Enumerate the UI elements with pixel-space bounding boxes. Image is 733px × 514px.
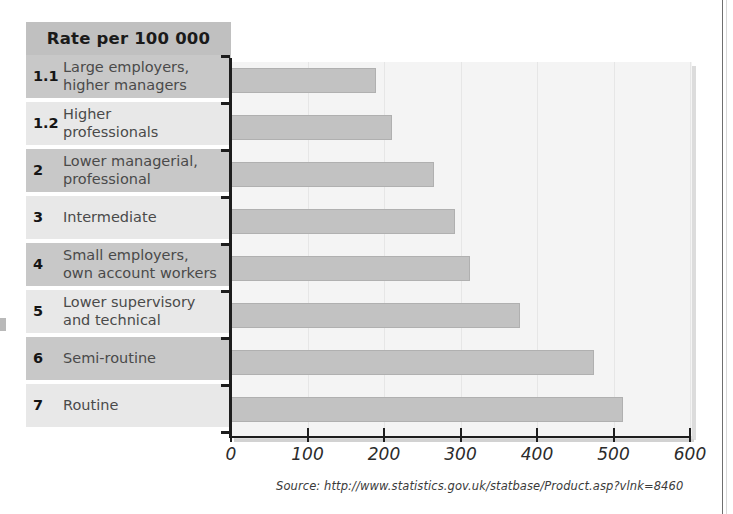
gridline-600: [690, 62, 691, 436]
category-row: 2Lower managerial, professional: [26, 149, 231, 192]
category-code: 4: [33, 256, 63, 273]
x-axis-tick: [307, 428, 309, 442]
category-code: 2: [33, 162, 63, 179]
x-axis-tick-label: 200: [354, 444, 414, 464]
y-axis-tick: [221, 55, 230, 58]
bar: [231, 256, 470, 281]
bar: [231, 303, 520, 328]
chart-page: Rate per 100 000 1.1Large employers, hig…: [0, 0, 733, 514]
category-code: 7: [33, 397, 63, 414]
x-axis-tick-label: 100: [278, 444, 338, 464]
x-axis-tick-label: 300: [431, 444, 491, 464]
source-note: Source: http://www.statistics.gov.uk/sta…: [276, 479, 683, 493]
category-code: 1.2: [33, 115, 63, 132]
x-axis-tick: [613, 428, 615, 442]
gridline-400: [537, 62, 538, 436]
y-axis-tick: [221, 149, 230, 152]
category-code: 1.1: [33, 68, 63, 85]
y-axis-line: [229, 58, 232, 438]
bar: [231, 68, 376, 93]
x-axis-tick: [536, 428, 538, 442]
gridline-300: [461, 62, 462, 436]
y-axis-tick: [221, 384, 230, 387]
x-axis-tick-label: 500: [584, 444, 644, 464]
y-axis-tick: [221, 337, 230, 340]
y-axis-tick: [221, 196, 230, 199]
category-row: 1.1Large employers, higher managers: [26, 55, 231, 98]
category-label: Small employers, own account workers: [63, 247, 217, 281]
y-axis-tick: [221, 290, 230, 293]
category-row: 3Intermediate: [26, 196, 231, 239]
category-label: Lower managerial, professional: [63, 153, 198, 187]
bar: [231, 350, 594, 375]
x-axis-tick: [230, 428, 232, 442]
category-label: Higher professionals: [63, 106, 158, 140]
y-axis-tick: [221, 102, 230, 105]
category-row: 6Semi-routine: [26, 337, 231, 380]
page-edge-rule-secondary: [726, 0, 727, 514]
x-axis-tick: [689, 428, 691, 442]
category-label: Routine: [63, 397, 118, 414]
category-code: 3: [33, 209, 63, 226]
bar: [231, 209, 455, 234]
x-axis-tick-label: 0: [201, 444, 261, 464]
x-axis-shadow: [234, 439, 694, 442]
page-edge-rule: [722, 0, 723, 514]
bar: [231, 397, 623, 422]
category-row: 7Routine: [26, 384, 231, 427]
margin-mark: [0, 318, 6, 331]
y-axis-tick: [221, 431, 230, 434]
y-axis-tick: [221, 243, 230, 246]
chart-title: Rate per 100 000: [26, 22, 231, 55]
category-row: 5Lower supervisory and technical: [26, 290, 231, 333]
x-axis-tick-label: 400: [507, 444, 567, 464]
bar: [231, 115, 392, 140]
category-label: Large employers, higher managers: [63, 59, 189, 93]
category-label: Semi-routine: [63, 350, 156, 367]
category-code: 5: [33, 303, 63, 320]
category-label: Intermediate: [63, 209, 157, 226]
category-rows: 1.1Large employers, higher managers1.2Hi…: [26, 55, 231, 427]
x-axis-tick-label: 600: [660, 444, 720, 464]
category-label: Lower supervisory and technical: [63, 294, 195, 328]
category-row: 4Small employers, own account workers: [26, 243, 231, 286]
category-label-column: Rate per 100 000 1.1Large employers, hig…: [26, 22, 231, 427]
x-axis-tick: [460, 428, 462, 442]
bar: [231, 162, 434, 187]
gridline-500: [614, 62, 615, 436]
category-row: 1.2Higher professionals: [26, 102, 231, 145]
x-axis-tick: [383, 428, 385, 442]
category-code: 6: [33, 350, 63, 367]
